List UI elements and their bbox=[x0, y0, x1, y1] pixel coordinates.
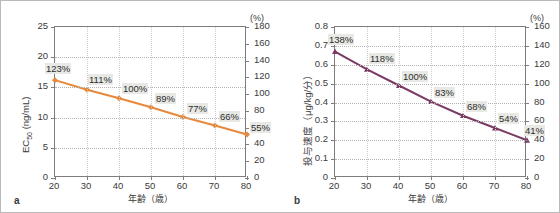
y-axis-tick-left bbox=[331, 27, 335, 28]
y-axis-tick-left bbox=[51, 118, 55, 119]
y-axis-tick-right bbox=[245, 94, 249, 95]
gridline-vertical bbox=[463, 27, 464, 176]
y-axis-tick-left bbox=[51, 87, 55, 88]
y-axis-tick-left bbox=[331, 121, 335, 122]
y-axis-label-right: 120 bbox=[534, 59, 560, 69]
y-axis-tick-right bbox=[245, 111, 249, 112]
y-axis-label-left: 0.3 bbox=[288, 115, 328, 125]
y-axis-tick-right bbox=[245, 77, 249, 78]
panel-a-plot-area bbox=[54, 26, 246, 177]
y-axis-label-right: 60 bbox=[534, 115, 560, 125]
panel-b-plot-area bbox=[334, 26, 526, 177]
data-point-label: 68% bbox=[466, 101, 487, 112]
y-axis-tick-right bbox=[245, 161, 249, 162]
y-axis-tick-left bbox=[51, 27, 55, 28]
y-axis-label-right: 140 bbox=[534, 40, 560, 50]
y-axis-tick-right bbox=[525, 159, 529, 160]
y-axis-tick-right bbox=[245, 44, 249, 45]
gridline-horizontal bbox=[335, 140, 525, 141]
y-axis-tick-right bbox=[525, 46, 529, 47]
y-axis-label-left: 0.7 bbox=[288, 40, 328, 50]
panel-b-x-axis-title: 年齢（歳） bbox=[370, 192, 490, 205]
gridline-horizontal bbox=[335, 65, 525, 66]
series-marker bbox=[332, 49, 338, 54]
gridline-vertical bbox=[431, 27, 432, 176]
y-axis-label-left: 10 bbox=[8, 112, 48, 122]
gridline-vertical bbox=[495, 27, 496, 176]
y-axis-tick-left bbox=[331, 103, 335, 104]
gridline-horizontal bbox=[55, 57, 245, 58]
data-point-label: 83% bbox=[434, 87, 455, 98]
data-point-label: 111% bbox=[88, 74, 113, 85]
y-axis-tick-right bbox=[525, 65, 529, 66]
series-marker bbox=[52, 77, 58, 83]
y-axis-tick-right bbox=[525, 103, 529, 104]
gridline-vertical bbox=[183, 27, 184, 176]
data-point-label: 118% bbox=[369, 53, 395, 64]
gridline-horizontal bbox=[55, 87, 245, 88]
figure-container: EC50 (ng/mL) (%) 年齢（歳） a 051015202502040… bbox=[0, 0, 560, 213]
gridline-vertical bbox=[119, 27, 120, 176]
data-point-label: 54% bbox=[498, 113, 519, 124]
y-axis-label-left: 0.6 bbox=[288, 59, 328, 69]
y-axis-label-left: 5 bbox=[8, 142, 48, 152]
gridline-horizontal bbox=[55, 148, 245, 149]
panel-a-x-axis-title: 年齢（歳） bbox=[90, 192, 210, 205]
gridline-vertical bbox=[215, 27, 216, 176]
x-axis-label: 80 bbox=[226, 181, 266, 191]
y-axis-label-left: 0.4 bbox=[288, 97, 328, 107]
y-axis-label-left: 0.5 bbox=[288, 78, 328, 88]
data-point-label: 66% bbox=[219, 111, 240, 122]
y-axis-label-right: 80 bbox=[534, 97, 560, 107]
data-point-label: 77% bbox=[187, 103, 208, 114]
y-axis-tick-left bbox=[51, 148, 55, 149]
data-point-label: 138% bbox=[328, 34, 354, 45]
y-axis-tick-left bbox=[331, 159, 335, 160]
data-point-label: 41% bbox=[524, 125, 545, 136]
y-axis-tick-left bbox=[331, 46, 335, 47]
gridline-vertical bbox=[367, 27, 368, 176]
y-axis-label-left: 20 bbox=[8, 51, 48, 61]
gridline-horizontal bbox=[335, 46, 525, 47]
y-axis-tick-right bbox=[245, 128, 249, 129]
y-axis-tick-right bbox=[525, 84, 529, 85]
panel-a-y-axis-title-sub: 50 bbox=[26, 132, 33, 140]
gridline-vertical bbox=[87, 27, 88, 176]
chart-panel-a: EC50 (ng/mL) (%) 年齢（歳） a 051015202502040… bbox=[1, 1, 281, 213]
y-axis-tick-left bbox=[331, 65, 335, 66]
gridline-vertical bbox=[151, 27, 152, 176]
data-point-label: 55% bbox=[250, 122, 271, 133]
gridline-horizontal bbox=[335, 159, 525, 160]
data-point-label: 123% bbox=[45, 63, 71, 74]
y-axis-label-left: 0.8 bbox=[288, 21, 328, 31]
y-axis-tick-right bbox=[525, 121, 529, 122]
y-axis-tick-left bbox=[331, 84, 335, 85]
panel-b-letter: b bbox=[294, 195, 300, 206]
y-axis-label-left: 25 bbox=[8, 21, 48, 31]
y-axis-tick-right bbox=[245, 61, 249, 62]
y-axis-label-right: 100 bbox=[534, 78, 560, 88]
x-axis-label: 80 bbox=[506, 181, 546, 191]
y-axis-tick-right bbox=[245, 27, 249, 28]
y-axis-label-left: 0.1 bbox=[288, 153, 328, 163]
gridline-horizontal bbox=[55, 118, 245, 119]
y-axis-tick-right bbox=[525, 140, 529, 141]
gridline-vertical bbox=[399, 27, 400, 176]
gridline-horizontal bbox=[335, 103, 525, 104]
gridline-horizontal bbox=[335, 121, 525, 122]
gridline-horizontal bbox=[335, 84, 525, 85]
data-point-label: 100% bbox=[122, 83, 148, 94]
y-axis-label-right: 20 bbox=[534, 153, 560, 163]
y-axis-label-right: 160 bbox=[534, 21, 560, 31]
chart-panel-b: 投与速度（μg/kg/分） (%) 年齢（歳） b 00.10.20.30.40… bbox=[281, 1, 560, 213]
panel-a-letter: a bbox=[14, 195, 20, 206]
data-point-label: 89% bbox=[155, 93, 176, 104]
y-axis-tick-left bbox=[331, 140, 335, 141]
y-axis-label-left: 0.2 bbox=[288, 134, 328, 144]
y-axis-tick-right bbox=[525, 27, 529, 28]
y-axis-label-left: 15 bbox=[8, 81, 48, 91]
y-axis-tick-left bbox=[51, 57, 55, 58]
y-axis-tick-right bbox=[245, 144, 249, 145]
data-point-label: 100% bbox=[402, 71, 428, 82]
